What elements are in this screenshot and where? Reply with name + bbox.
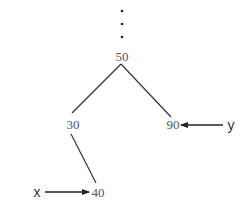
pointer-x-label: x [34, 184, 41, 200]
tree-diagram: 50 30 90 40 x y [0, 0, 251, 208]
edge-50-30 [72, 64, 121, 113]
node-30: 30 [67, 117, 80, 132]
node-40: 40 [92, 185, 105, 200]
node-90: 90 [167, 117, 180, 132]
ellipsis-dot [121, 23, 124, 26]
node-50: 50 [116, 49, 129, 64]
pointer-y-label: y [228, 117, 235, 133]
edge-30-40 [71, 134, 96, 183]
ellipsis-dot [121, 36, 124, 39]
ellipsis-dot [121, 10, 124, 13]
edge-50-90 [121, 64, 171, 117]
ellipsis-dots [121, 10, 124, 39]
